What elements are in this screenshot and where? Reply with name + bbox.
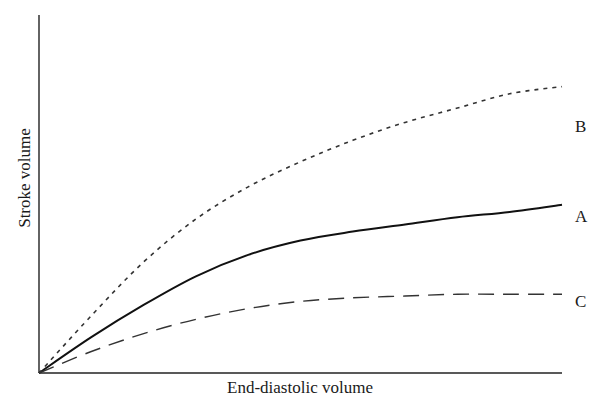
- y-axis-label: Stroke volume: [15, 128, 34, 228]
- frank-starling-chart: End-diastolic volume Stroke volume B A C: [0, 0, 604, 411]
- x-axis-label: End-diastolic volume: [227, 378, 373, 397]
- series-label-b: B: [575, 117, 586, 136]
- series-label-a: A: [575, 207, 588, 226]
- curve-c: [39, 294, 562, 373]
- series-label-c: C: [575, 292, 586, 311]
- curve-b: [39, 87, 562, 373]
- curve-a: [39, 205, 562, 373]
